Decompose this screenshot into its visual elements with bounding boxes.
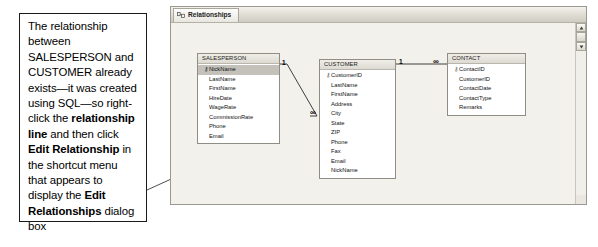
callout-emphasis: Edit Relationship <box>28 143 119 155</box>
table-title-customer[interactable]: CUSTOMER <box>320 60 395 70</box>
field-row[interactable]: LastName <box>198 75 279 85</box>
field-name: Email <box>331 157 346 167</box>
primary-key-icon: ⚷ <box>452 65 459 75</box>
field-list-salesperson: ⚷NickNameLastNameFirstNameHireDateWageRa… <box>198 64 279 143</box>
field-row[interactable]: CommissionRate <box>198 113 279 123</box>
tab-relationships[interactable]: Relationships <box>173 8 239 22</box>
field-name: Email <box>209 132 224 142</box>
field-row[interactable]: City <box>320 109 395 119</box>
field-row[interactable]: FirstName <box>198 84 279 94</box>
cardinality-contact-many: ∞ <box>433 58 439 65</box>
field-row[interactable]: ⚷ContactID <box>448 65 525 75</box>
primary-key-icon: ⚷ <box>324 71 331 81</box>
screenshot-root: The relationship between SALESPERSON and… <box>0 0 598 247</box>
callout-run: and then click <box>47 128 118 140</box>
field-name: Address <box>331 100 352 110</box>
field-row[interactable]: Phone <box>320 138 395 148</box>
table-title-contact[interactable]: CONTACT <box>448 54 525 64</box>
field-name: FirstName <box>209 84 236 94</box>
field-row[interactable]: ContactDate <box>448 84 525 94</box>
instruction-callout: The relationship between SALESPERSON and… <box>19 13 147 222</box>
field-row[interactable]: FirstName <box>320 90 395 100</box>
table-box-customer[interactable]: CUSTOMER ⚷CustomerIDLastNameFirstNameAdd… <box>319 59 396 179</box>
field-row[interactable]: Address <box>320 100 395 110</box>
scrollbar-corner <box>576 195 586 204</box>
field-row[interactable]: Remarks <box>448 103 525 113</box>
field-name: ContactID <box>459 65 485 75</box>
cardinality-salesperson-one: 1 <box>282 59 286 66</box>
relationships-icon <box>177 11 185 19</box>
relationships-window: Relationships 1 ∞ 1 ∞ SALESPERSON ⚷NickN… <box>170 6 587 205</box>
field-name: ZIP <box>331 128 340 138</box>
field-row[interactable]: ContactType <box>448 94 525 104</box>
field-name: City <box>331 109 341 119</box>
cardinality-customer-many: ∞ <box>310 109 316 116</box>
field-list-customer: ⚷CustomerIDLastNameFirstNameAddressCityS… <box>320 70 395 178</box>
field-row[interactable]: ⚷CustomerID <box>320 71 395 81</box>
field-name: CustomerID <box>331 71 362 81</box>
tab-label: Relationships <box>188 11 231 19</box>
field-name: State <box>331 119 345 129</box>
field-name: HireDate <box>209 94 232 104</box>
primary-key-icon: ⚷ <box>202 65 209 75</box>
field-name: CustomerID <box>459 75 490 85</box>
field-row[interactable]: LastName <box>320 81 395 91</box>
field-row[interactable]: NickName <box>320 166 395 176</box>
field-row[interactable]: Email <box>320 157 395 167</box>
callout-run: The relationship between SALESPERSON and… <box>28 20 137 124</box>
window-titlebar: Relationships <box>171 7 586 23</box>
field-name: LastName <box>209 75 235 85</box>
field-name: Remarks <box>459 103 482 113</box>
field-name: FirstName <box>331 90 358 100</box>
field-row[interactable]: WageRate <box>198 103 279 113</box>
field-name: ContactDate <box>459 84 491 94</box>
cardinality-customer-one: 1 <box>399 58 403 65</box>
field-name: Phone <box>331 138 348 148</box>
field-name: CommissionRate <box>209 113 253 123</box>
scroll-up-arrow-icon[interactable] <box>576 23 586 32</box>
scrollbar-thumb[interactable] <box>576 32 586 42</box>
field-row[interactable]: ⚷NickName <box>198 65 279 75</box>
field-name: Fax <box>331 147 341 157</box>
table-box-contact[interactable]: CONTACT ⚷ContactIDCustomerIDContactDateC… <box>447 53 526 116</box>
field-name: NickName <box>209 65 236 75</box>
vertical-scrollbar[interactable] <box>575 23 586 204</box>
instruction-callout-text: The relationship between SALESPERSON and… <box>28 19 139 235</box>
field-list-contact: ⚷ContactIDCustomerIDContactDateContactTy… <box>448 64 525 115</box>
table-title-salesperson[interactable]: SALESPERSON <box>198 54 279 64</box>
field-name: ContactType <box>459 94 492 104</box>
scroll-down-arrow-icon[interactable] <box>576 42 586 51</box>
field-name: Phone <box>209 122 226 132</box>
field-name: WageRate <box>209 103 236 113</box>
field-row[interactable]: Email <box>198 132 279 142</box>
field-row[interactable]: State <box>320 119 395 129</box>
relationships-canvas[interactable]: 1 ∞ 1 ∞ SALESPERSON ⚷NickNameLastNameFir… <box>171 23 576 204</box>
field-name: NickName <box>331 166 358 176</box>
field-name: LastName <box>331 81 357 91</box>
field-row[interactable]: Phone <box>198 122 279 132</box>
table-box-salesperson[interactable]: SALESPERSON ⚷NickNameLastNameFirstNameHi… <box>197 53 280 144</box>
field-row[interactable]: CustomerID <box>448 75 525 85</box>
field-row[interactable]: Fax <box>320 147 395 157</box>
field-row[interactable]: HireDate <box>198 94 279 104</box>
field-row[interactable]: ZIP <box>320 128 395 138</box>
